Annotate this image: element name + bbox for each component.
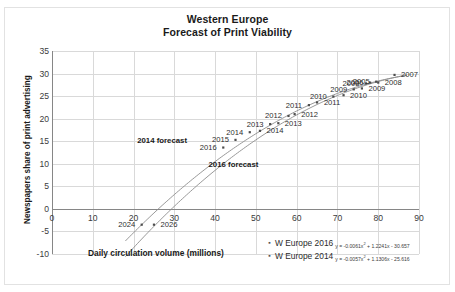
x-tick-label: 80	[361, 213, 395, 223]
data-point-label: 2013	[285, 118, 302, 127]
y-tick-label: -10	[3, 249, 49, 259]
gridline-horizontal	[52, 231, 419, 232]
data-point-label: 2013	[247, 119, 264, 128]
x-axis-line	[52, 209, 419, 210]
legend-equation-1: y = -0.0057x2 + 1.1306x - 25.616	[335, 254, 409, 262]
chart-legend: ▪ W Europe 2016 y = -0.0061x2 + 1.2241x …	[266, 236, 452, 264]
legend-entry-1: ▪ W Europe 2014 y = -0.0057x2 + 1.1306x …	[266, 249, 452, 262]
data-point-label: 2007	[401, 70, 418, 79]
legend-equation-1-rest: + 1.1306x - 25.616	[366, 256, 410, 262]
gridline-horizontal	[52, 74, 419, 75]
data-point-label: 2014	[267, 126, 284, 135]
gridline-horizontal	[52, 119, 419, 120]
legend-label-1: W Europe 2014	[275, 251, 333, 261]
y-tick-label: 25	[3, 91, 49, 101]
data-point-label: 2016	[200, 143, 217, 152]
data-point-label: 2012	[265, 111, 282, 120]
data-point-label: 2011	[286, 100, 302, 109]
data-point-label: 2010	[310, 92, 327, 101]
x-tick-label: 90	[402, 213, 436, 223]
legend-marker-icon-0: ▪	[266, 239, 273, 246]
y-tick-label: 35	[3, 46, 49, 56]
x-tick-label: 0	[35, 213, 69, 223]
gridline-vertical	[419, 51, 420, 254]
forecast-annotation: 2016 forecast	[209, 159, 259, 168]
x-tick-label: 70	[320, 213, 354, 223]
legend-marker-icon-1: ▪	[266, 252, 273, 259]
y-tick-label: -5	[3, 226, 49, 236]
x-axis-ticks: 0102030405060708090	[52, 213, 419, 227]
x-tick-label: 40	[198, 213, 232, 223]
gridline-horizontal	[52, 141, 419, 142]
data-point-label: 2009	[368, 83, 385, 92]
x-axis-title: Daily circulation volume (millions)	[88, 248, 224, 258]
chart-screenshot: Western Europe Forecast of Print Viabili…	[0, 0, 455, 292]
legend-equation-0: y = -0.0061x2 + 1.2241x - 30.657	[335, 241, 409, 249]
y-axis-ticks: 35302520151050-5-10	[0, 51, 49, 254]
chart-subtitle: Forecast of Print Viability	[0, 26, 455, 39]
data-point-label: 2012	[301, 109, 318, 118]
data-point-label: 2026	[160, 220, 177, 229]
data-point-label: 2024	[118, 220, 135, 229]
gridline-horizontal	[52, 51, 419, 52]
y-tick-label: 5	[3, 181, 49, 191]
data-point-label: 2008	[385, 78, 402, 87]
legend-equation-0-prefix: y = -0.0061x	[335, 243, 363, 249]
y-tick-label: 10	[3, 159, 49, 169]
chart-title-block: Western Europe Forecast of Print Viabili…	[0, 13, 455, 39]
legend-entry-0: ▪ W Europe 2016 y = -0.0061x2 + 1.2241x …	[266, 236, 452, 249]
x-tick-label: 10	[76, 213, 110, 223]
gridline-horizontal	[52, 186, 419, 187]
y-tick-label: 20	[3, 114, 49, 124]
x-tick-label: 50	[239, 213, 273, 223]
y-tick-label: 15	[3, 136, 49, 146]
legend-equation-0-rest: + 1.2241x - 30.657	[366, 243, 410, 249]
data-point-label: 2010	[350, 90, 367, 99]
legend-equation-1-prefix: y = -0.0057x	[335, 256, 363, 262]
chart-title: Western Europe	[0, 13, 455, 26]
y-tick-label: 30	[3, 69, 49, 79]
data-point-label: 2009	[330, 84, 347, 93]
forecast-annotation: 2014 forecast	[137, 136, 187, 145]
legend-label-0: W Europe 2016	[275, 238, 333, 248]
x-tick-label: 60	[280, 213, 314, 223]
